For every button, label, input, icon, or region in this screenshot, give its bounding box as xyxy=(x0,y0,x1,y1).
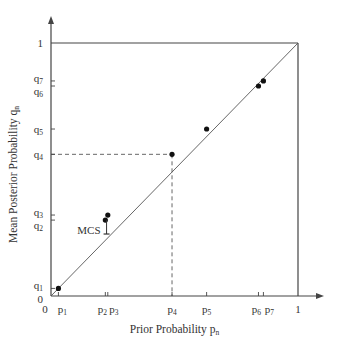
data-point-1 xyxy=(56,286,61,291)
y-axis-arrow-icon xyxy=(48,16,54,24)
plot-area: 0p1p2p3p4p5p6p711q7q6q5q4q3q2q10MCSPrior… xyxy=(7,16,324,337)
data-point-4 xyxy=(169,152,174,157)
y-tick-label-q3: q3 xyxy=(34,206,44,220)
data-point-3 xyxy=(105,212,110,217)
x-tick-label-p7: p7 xyxy=(265,303,275,317)
y-tick-label-q2: q2 xyxy=(34,219,44,233)
data-point-5 xyxy=(204,126,209,131)
y-tick-label-q4: q4 xyxy=(34,148,44,162)
calibration-chart: 0p1p2p3p4p5p6p711q7q6q5q4q3q2q10MCSPrior… xyxy=(0,0,337,342)
data-point-2 xyxy=(103,218,108,223)
y-tick-label-1: 1 xyxy=(38,37,44,49)
mcs-label: MCS xyxy=(77,224,100,236)
y-axis-title: Mean Posterior Probability qn xyxy=(7,106,21,243)
y-tick-label-q1: q1 xyxy=(34,279,44,293)
data-point-7 xyxy=(261,78,266,83)
data-point-6 xyxy=(256,83,261,88)
x-tick-label-p2: p2 xyxy=(98,303,108,317)
y-tick-label-0: 0 xyxy=(38,293,44,305)
x-tick-label-p5: p5 xyxy=(202,303,212,317)
x-tick-label-p4: p4 xyxy=(167,303,177,317)
x-tick-label-0: 0 xyxy=(42,303,48,315)
x-tick-label-p3: p3 xyxy=(109,303,119,317)
x-axis-arrow-icon xyxy=(316,293,324,299)
y-tick-label-q5: q5 xyxy=(34,123,44,137)
x-axis-title: Prior Probability pn xyxy=(130,323,220,337)
y-tick-label-q7: q7 xyxy=(34,72,44,86)
x-tick-label-p1: p1 xyxy=(58,303,68,317)
y-tick-label-q6: q6 xyxy=(34,85,44,99)
x-tick-label-1: 1 xyxy=(295,303,301,315)
x-tick-label-p6: p6 xyxy=(252,303,262,317)
